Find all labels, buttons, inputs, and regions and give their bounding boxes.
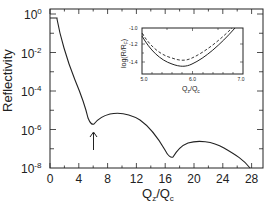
y-axis-label: Reflectivity bbox=[0, 49, 15, 112]
svg-text:10-8: 10-8 bbox=[21, 161, 42, 176]
svg-text:7.0: 7.0 bbox=[238, 76, 245, 82]
inset-x-tick-labels: 5.0 6.0 7.0 bbox=[141, 76, 245, 82]
svg-text:8: 8 bbox=[104, 172, 111, 186]
arrow-annotation bbox=[90, 132, 97, 150]
svg-text:16: 16 bbox=[159, 172, 173, 186]
inset-x-axis-label: Qz/Qc bbox=[182, 85, 200, 94]
svg-text:10-2: 10-2 bbox=[21, 46, 42, 61]
svg-text:10-4: 10-4 bbox=[21, 84, 42, 99]
svg-text:5.0: 5.0 bbox=[141, 76, 148, 82]
svg-text:-1.0: -1.0 bbox=[129, 25, 138, 31]
svg-text:28: 28 bbox=[245, 172, 259, 186]
inset-y-tick-labels: -1.0 -1.2 -1.4 bbox=[129, 25, 138, 65]
svg-text:100: 100 bbox=[24, 7, 42, 22]
x-axis-label: Qz/Qc bbox=[142, 186, 174, 203]
y-tick-labels: 100 10-2 10-4 10-6 10-8 bbox=[21, 7, 42, 176]
svg-text:0: 0 bbox=[47, 172, 54, 186]
svg-text:4: 4 bbox=[75, 172, 82, 186]
inset-y-axis-label: log(R/RF) bbox=[120, 39, 129, 68]
svg-text:20: 20 bbox=[187, 172, 201, 186]
svg-text:10-6: 10-6 bbox=[21, 123, 42, 138]
svg-text:-1.4: -1.4 bbox=[129, 59, 138, 65]
svg-text:12: 12 bbox=[130, 172, 144, 186]
x-tick-labels: 0 4 8 12 16 20 24 28 bbox=[47, 172, 259, 186]
svg-text:24: 24 bbox=[216, 172, 230, 186]
inset-chart: -1.0 -1.2 -1.4 5.0 6.0 7.0 log(R/RF) Qz/… bbox=[120, 25, 245, 94]
svg-text:6.0: 6.0 bbox=[189, 76, 196, 82]
svg-text:-1.2: -1.2 bbox=[129, 41, 138, 47]
reflectivity-chart: 100 10-2 10-4 10-6 10-8 Reflectivity 0 4… bbox=[0, 0, 267, 214]
inset-frame bbox=[142, 28, 243, 74]
